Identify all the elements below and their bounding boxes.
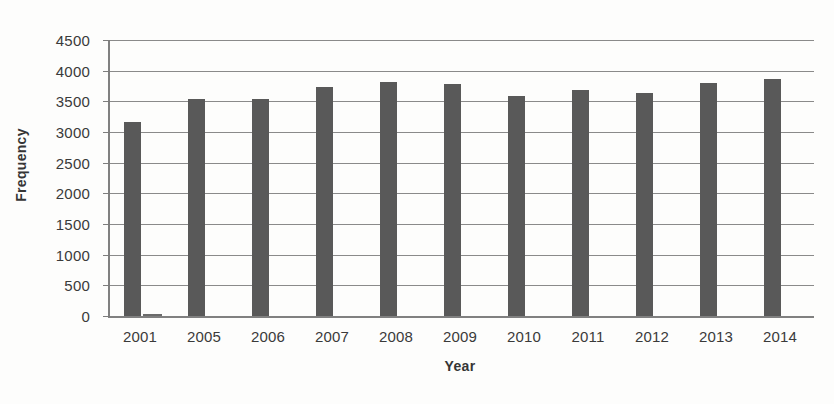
bar-group [366,40,430,316]
x-tick-label: 2014 [748,328,812,345]
bar-group [110,40,174,316]
y-tick-label: 1000 [56,246,90,263]
y-tickmark [103,316,110,317]
y-tickmark [103,163,110,164]
x-tick-label: 2008 [364,328,428,345]
x-tick-label: 2012 [620,328,684,345]
x-tick-label: 2010 [492,328,556,345]
plot-area [108,40,814,318]
x-tick-label: 2009 [428,328,492,345]
bar-group [238,40,302,316]
bar [316,87,333,316]
y-tick-label: 3500 [56,93,90,110]
x-tick-label: 2013 [684,328,748,345]
y-tick-label: 0 [81,308,90,325]
x-tick-label: 2011 [556,328,620,345]
bar-group [558,40,622,316]
bar-chart-figure: Frequency 050010001500200025003000350040… [0,0,834,404]
y-tickmark [103,285,110,286]
bar-group [302,40,366,316]
y-axis-title-label: Frequency [13,128,29,202]
x-tick-label: 2007 [300,328,364,345]
bar [444,84,461,316]
bar [508,96,525,316]
bar-group [174,40,238,316]
bar [572,90,589,316]
bar [636,93,653,316]
y-tickmark [103,101,110,102]
bar [380,82,397,316]
x-axis-title: Year [108,358,812,374]
x-tick-label: 2006 [236,328,300,345]
bar-group [430,40,494,316]
bar [764,79,781,316]
y-tick-label: 4500 [56,32,90,49]
y-axis-tick-labels: 050010001500200025003000350040004500 [36,40,98,316]
y-tick-label: 500 [64,277,90,294]
bar-group [686,40,750,316]
y-tickmark [103,132,110,133]
bar [700,83,717,316]
bar-secondary [143,314,162,316]
y-tick-label: 4000 [56,62,90,79]
y-tick-label: 2000 [56,185,90,202]
y-tickmark [103,224,110,225]
bar [252,99,269,316]
y-tick-label: 2500 [56,154,90,171]
bars-layer [110,40,814,316]
bar [124,122,141,316]
bar-group [494,40,558,316]
y-axis-title: Frequency [6,0,36,330]
x-tick-label: 2001 [108,328,172,345]
x-tick-label: 2005 [172,328,236,345]
x-axis-tick-labels: 2001200520062007200820092010201120122013… [108,322,812,352]
bar-group [750,40,814,316]
bar-group [622,40,686,316]
bar [188,99,205,316]
y-tick-label: 3000 [56,124,90,141]
y-tickmark [103,71,110,72]
y-tick-label: 1500 [56,216,90,233]
y-tickmark [103,255,110,256]
y-tickmark [103,40,110,41]
y-tickmark [103,193,110,194]
